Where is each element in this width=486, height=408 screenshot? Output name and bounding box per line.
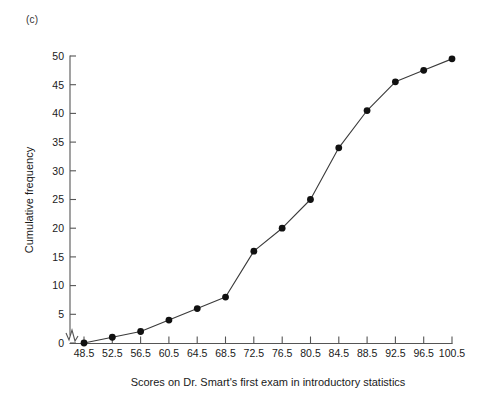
y-tick-labels: 0 5 10 15 20 25 30 35 40 45 50 <box>52 50 64 349</box>
y-tick-label: 50 <box>52 50 64 62</box>
x-axis-title: Scores on Dr. Smart's first exam in intr… <box>131 376 406 388</box>
data-point <box>194 305 201 312</box>
y-tick-label: 10 <box>52 279 64 291</box>
figure-panel: (c) 0 5 10 15 20 25 <box>0 0 486 408</box>
x-tick-label: 96.5 <box>413 347 434 359</box>
data-point <box>392 78 399 85</box>
y-tick-label: 35 <box>52 136 64 148</box>
x-tick-label: 48.5 <box>74 347 95 359</box>
x-tick-label: 64.5 <box>187 347 208 359</box>
data-point <box>449 55 456 62</box>
x-tick-label: 72.5 <box>244 347 265 359</box>
data-point <box>250 248 257 255</box>
data-point <box>166 317 173 324</box>
x-tick-marks <box>84 337 452 344</box>
y-tick-marks <box>70 56 76 343</box>
y-tick-label: 45 <box>52 79 64 91</box>
data-point <box>307 196 314 203</box>
data-point <box>364 107 371 114</box>
y-tick-label: 0 <box>58 337 64 349</box>
data-point <box>109 334 116 341</box>
data-point <box>279 225 286 232</box>
data-point <box>81 340 88 347</box>
data-point <box>137 328 144 335</box>
x-tick-label: 76.5 <box>272 347 293 359</box>
x-tick-label: 100.5 <box>439 347 465 359</box>
y-tick-label: 25 <box>52 193 64 205</box>
x-tick-label: 56.5 <box>130 347 151 359</box>
x-tick-label: 92.5 <box>385 347 406 359</box>
y-tick-label: 15 <box>52 251 64 263</box>
y-tick-label: 40 <box>52 107 64 119</box>
x-tick-label: 52.5 <box>102 347 123 359</box>
cumulative-frequency-line <box>84 59 452 343</box>
y-tick-label: 20 <box>52 222 64 234</box>
axis-break-icon <box>66 330 78 341</box>
y-tick-label: 30 <box>52 165 64 177</box>
x-tick-label: 88.5 <box>357 347 378 359</box>
x-tick-label: 68.5 <box>215 347 236 359</box>
y-tick-label: 5 <box>58 308 64 320</box>
y-axis-title: Cumulative frequency <box>23 146 35 253</box>
x-tick-label: 80.5 <box>300 347 321 359</box>
data-point <box>420 67 427 74</box>
data-point-markers <box>81 55 456 346</box>
x-tick-label: 60.5 <box>159 347 180 359</box>
x-tick-label: 84.5 <box>329 347 350 359</box>
cumulative-frequency-chart: 0 5 10 15 20 25 30 35 40 45 50 <box>0 0 486 408</box>
data-point <box>222 294 229 301</box>
data-point <box>335 144 342 151</box>
x-tick-labels: 48.5 52.5 56.5 60.5 64.5 68.5 72.5 76.5 … <box>74 347 466 359</box>
